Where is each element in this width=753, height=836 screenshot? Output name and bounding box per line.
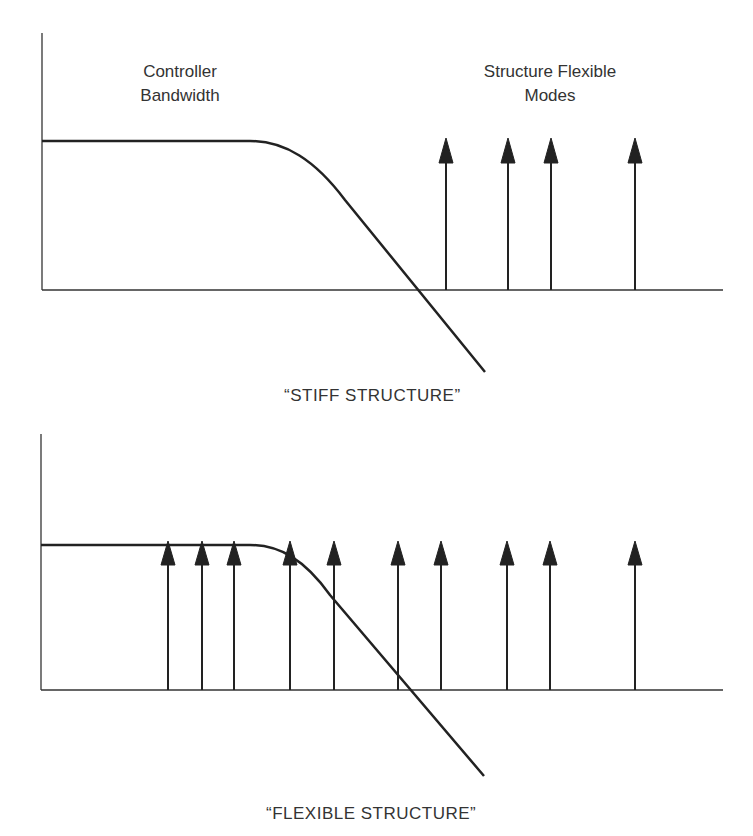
mode-arrow-icon xyxy=(227,541,241,690)
stiff-structure-caption: “STIFF STRUCTURE” xyxy=(284,386,461,406)
mode-arrow-icon xyxy=(327,541,341,690)
mode-arrow-icon xyxy=(434,541,448,690)
mode-arrow-icon xyxy=(501,138,515,290)
top-mode-arrows xyxy=(439,138,642,290)
label-line: Bandwidth xyxy=(120,84,240,108)
bottom-bandwidth-curve xyxy=(41,545,484,776)
flexible-structure-caption: “FLEXIBLE STRUCTURE” xyxy=(266,804,476,824)
mode-arrow-icon xyxy=(544,138,558,290)
mode-arrow-icon xyxy=(543,541,557,690)
diagram-canvas xyxy=(0,0,753,836)
mode-arrow-icon xyxy=(628,138,642,290)
bottom-panel-axes xyxy=(41,434,723,690)
mode-arrow-icon xyxy=(500,541,514,690)
mode-arrow-icon xyxy=(283,541,297,690)
mode-arrow-icon xyxy=(628,541,642,690)
top-bandwidth-curve xyxy=(42,141,485,372)
label-line: Controller xyxy=(120,60,240,84)
mode-arrow-icon xyxy=(161,541,175,690)
label-line: Structure Flexible xyxy=(460,60,640,84)
mode-arrow-icon xyxy=(439,138,453,290)
controller-bandwidth-label: Controller Bandwidth xyxy=(120,60,240,108)
bottom-mode-arrows xyxy=(161,541,642,690)
mode-arrow-icon xyxy=(195,541,209,690)
label-line: Modes xyxy=(460,84,640,108)
structure-flexible-modes-label: Structure Flexible Modes xyxy=(460,60,640,108)
